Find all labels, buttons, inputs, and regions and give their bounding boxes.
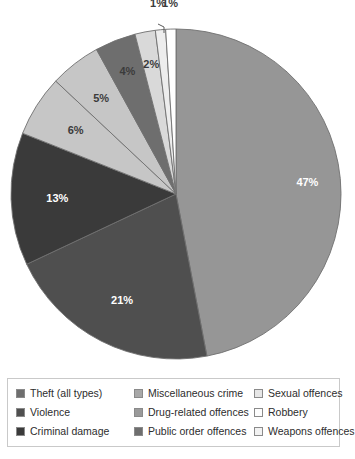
legend-swatch-sexual-offences — [254, 389, 263, 398]
slice-label-miscellaneous-crime: 6% — [68, 124, 84, 136]
pie-chart-area: 47%21%13%6%5%4%2%1%1% — [0, 0, 349, 372]
legend-item-sexual-offences[interactable]: Sexual offences — [254, 388, 355, 399]
slice-label-theft-all-types: 47% — [296, 176, 318, 188]
slice-label-violence: 21% — [111, 294, 133, 306]
slice-label-drug-related-offences: 5% — [93, 92, 109, 104]
slice-label-public-order-offences: 4% — [119, 65, 135, 77]
legend-label-robbery: Robbery — [268, 407, 308, 418]
legend-label-public-order-offences: Public order offences — [148, 426, 246, 437]
pie-chart-svg: 47%21%13%6%5%4%2%1%1% — [0, 0, 349, 372]
legend-swatch-violence — [16, 408, 25, 417]
legend-label-sexual-offences: Sexual offences — [268, 388, 343, 399]
slice-label-sexual-offences: 2% — [143, 58, 159, 70]
legend-label-miscellaneous-crime: Miscellaneous crime — [148, 388, 243, 399]
legend-item-violence[interactable]: Violence — [16, 407, 134, 418]
slice-label-criminal-damage: 13% — [46, 192, 68, 204]
chart-legend: Theft (all types) Miscellaneous crime Se… — [7, 378, 340, 447]
legend-label-theft-all-types: Theft (all types) — [30, 388, 102, 399]
legend-item-miscellaneous-crime[interactable]: Miscellaneous crime — [134, 388, 254, 399]
pie-slice-theft-all-types[interactable] — [176, 29, 341, 356]
legend-label-criminal-damage: Criminal damage — [30, 426, 109, 437]
legend-item-theft-all-types[interactable]: Theft (all types) — [16, 388, 134, 399]
legend-label-violence: Violence — [30, 407, 70, 418]
slice-label-weapons-offences: 1% — [162, 0, 178, 9]
legend-swatch-miscellaneous-crime — [134, 389, 143, 398]
legend-label-weapons-offences: Weapons offences — [268, 426, 355, 437]
legend-item-criminal-damage[interactable]: Criminal damage — [16, 426, 134, 437]
legend-swatch-drug-related-offences — [134, 408, 143, 417]
legend-item-public-order-offences[interactable]: Public order offences — [134, 426, 254, 437]
legend-swatch-weapons-offences — [254, 427, 263, 436]
legend-swatch-public-order-offences — [134, 427, 143, 436]
legend-swatch-robbery — [254, 408, 263, 417]
legend-item-drug-related-offences[interactable]: Drug-related offences — [134, 407, 254, 418]
legend-item-robbery[interactable]: Robbery — [254, 407, 355, 418]
legend-label-drug-related-offences: Drug-related offences — [148, 407, 249, 418]
legend-item-weapons-offences[interactable]: Weapons offences — [254, 426, 355, 437]
legend-swatch-criminal-damage — [16, 427, 25, 436]
legend-swatch-theft-all-types — [16, 389, 25, 398]
